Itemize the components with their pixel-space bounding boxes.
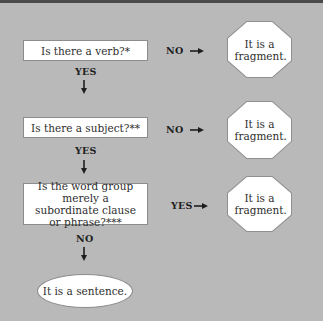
outcome-sentence: It is a sentence. <box>37 274 133 308</box>
top-border <box>0 0 323 3</box>
edge-label-no: NO <box>166 124 183 135</box>
down-arrow-icon <box>79 160 89 174</box>
right-arrow-icon <box>194 202 208 210</box>
edge-label-yes: YES <box>75 145 96 156</box>
edge-label-no: NO <box>76 233 93 244</box>
outcome-text: It is a fragment. <box>235 38 285 62</box>
outcome-text: It is a sentence. <box>43 285 127 297</box>
edge-label-no: NO <box>166 45 183 56</box>
right-arrow-icon <box>190 47 204 55</box>
outcome-fragment-2: It is a fragment. <box>227 101 292 159</box>
edge-label-yes: YES <box>171 200 192 211</box>
question-text: Is there a verb?* <box>41 45 130 57</box>
question-text: Is there a subject?** <box>31 122 140 134</box>
question-box-subject: Is there a subject?** <box>23 117 148 138</box>
outcome-text: It is a fragment. <box>235 118 285 142</box>
down-arrow-icon <box>79 80 89 94</box>
question-box-subordinate: Is the word group merely a subordinate c… <box>23 183 148 225</box>
question-box-verb: Is there a verb?* <box>23 40 148 61</box>
outcome-fragment-1: It is a fragment. <box>227 21 292 78</box>
outcome-fragment-3: It is a fragment. <box>227 176 292 232</box>
question-text: Is the word group merely a subordinate c… <box>30 180 141 228</box>
right-arrow-icon <box>190 126 204 134</box>
down-arrow-icon <box>79 247 89 261</box>
outcome-text: It is a fragment. <box>235 192 285 216</box>
edge-label-yes: YES <box>75 66 96 77</box>
